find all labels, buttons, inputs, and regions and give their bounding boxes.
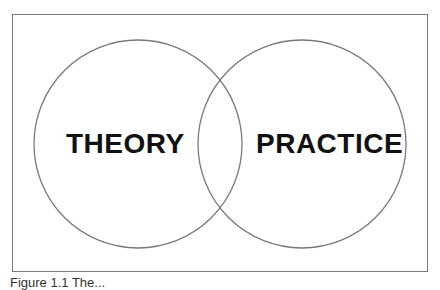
figure-caption: Figure 1.1 The...: [10, 276, 105, 289]
theory-label: THEORY: [66, 130, 185, 158]
practice-label: PRACTICE: [256, 130, 403, 158]
